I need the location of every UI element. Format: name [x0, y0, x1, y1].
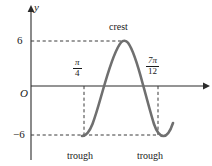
sinusoid-curve [82, 41, 173, 136]
x-tick-7pi-over-12-numerator: 7π [146, 56, 159, 65]
x-axis-arrowhead [203, 83, 210, 90]
x-tick-pi-over-4-denominator: 4 [73, 69, 82, 78]
y-tick-label-minus-6: −6 [13, 129, 25, 140]
x-tick-pi-over-4-numerator: π [73, 58, 82, 67]
trough-annotation-right: trough [137, 151, 163, 161]
y-axis-label: y [34, 2, 39, 13]
trough-annotation-left: trough [67, 151, 93, 161]
x-tick-7pi-over-12-denominator: 12 [146, 67, 159, 76]
x-tick-label-7pi-over-12: 7π 12 [146, 56, 159, 77]
x-tick-label-pi-over-4: π 4 [73, 58, 82, 79]
y-tick-label-6: 6 [17, 35, 23, 46]
sinusoid-figure: y O 6 −6 crest trough trough π 4 7π 12 [0, 0, 212, 166]
crest-annotation: crest [109, 22, 128, 32]
origin-label: O [20, 88, 28, 99]
plot-canvas [0, 0, 212, 166]
